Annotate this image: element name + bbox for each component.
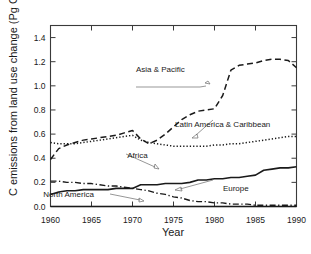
series-label-europe: Europe — [223, 184, 249, 193]
chart-figure: C emissions from land use change (Pg C y… — [0, 0, 311, 254]
y-tick-label: 0.8 — [34, 105, 46, 115]
x-axis-title: Year — [162, 226, 185, 238]
series-line-asia-pacific — [51, 59, 297, 159]
x-tick-label: 1960 — [41, 215, 60, 225]
emissions-line-chart: C emissions from land use change (Pg C y… — [0, 0, 311, 254]
y-tick-label: 0.2 — [34, 177, 46, 187]
y-axis-title-text: C emissions from land use change (Pg C y — [7, 0, 19, 196]
series-label-africa: Africa — [127, 151, 148, 160]
x-tick-label: 1985 — [246, 215, 265, 225]
y-tick-label: 1.4 — [34, 33, 46, 43]
svg-text:C emissions from land use chan: C emissions from land use change (Pg C y… — [7, 0, 19, 196]
x-tick-label: 1975 — [164, 215, 183, 225]
y-axis-title: C emissions from land use change (Pg C y… — [7, 0, 19, 196]
series-annotations: Asia & PacificLatin America & CaribbeanA… — [43, 65, 270, 199]
y-tick-label: 1.2 — [34, 57, 46, 67]
y-tick-label: 1.0 — [34, 81, 46, 91]
series-label-latin-america-caribbean: Latin America & Caribbean — [175, 120, 270, 129]
x-tick-label: 1965 — [82, 215, 101, 225]
plot-frame — [51, 26, 297, 207]
series-line-latin-america-caribbean — [51, 135, 297, 146]
x-tick-label: 1970 — [123, 215, 142, 225]
axis-ticks — [51, 26, 297, 207]
x-tick-label: 1990 — [287, 215, 306, 225]
series-label-north-america: North America — [43, 190, 94, 199]
series-label-asia-pacific: Asia & Pacific — [136, 65, 185, 74]
data-series-group — [51, 59, 297, 206]
y-tick-label: 0.0 — [34, 202, 46, 212]
y-tick-label: 0.4 — [34, 153, 46, 163]
x-tick-label: 1980 — [205, 215, 224, 225]
y-tick-label: 0.6 — [34, 129, 46, 139]
